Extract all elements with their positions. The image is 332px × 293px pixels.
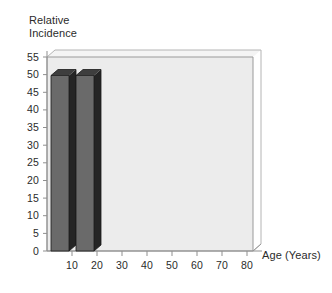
y-tick-label-50: 50 bbox=[17, 69, 39, 80]
bar-front-face bbox=[76, 76, 94, 252]
y-axis-title: Relative Incidence bbox=[29, 14, 77, 40]
y-tick-label-15: 15 bbox=[17, 193, 39, 204]
x-tick-label-50: 50 bbox=[160, 260, 184, 271]
bar-age-20 bbox=[76, 70, 101, 252]
y-tick-label-40: 40 bbox=[17, 104, 39, 115]
x-tick-label-20: 20 bbox=[85, 260, 109, 271]
bar-side-face bbox=[69, 70, 76, 252]
x-tick-label-40: 40 bbox=[135, 260, 159, 271]
y-axis-title-line-1: Relative bbox=[29, 14, 77, 27]
y-tick-label-25: 25 bbox=[17, 157, 39, 168]
y-tick-label-55: 55 bbox=[17, 52, 39, 63]
y-tick-label-5: 5 bbox=[17, 228, 39, 239]
x-tick-label-30: 30 bbox=[110, 260, 134, 271]
bar-age-10 bbox=[51, 70, 76, 252]
plot-right-ledge bbox=[253, 50, 261, 251]
y-tick-marks bbox=[43, 57, 47, 251]
x-tick-label-70: 70 bbox=[210, 260, 234, 271]
x-tick-label-10: 10 bbox=[60, 260, 84, 271]
y-tick-label-20: 20 bbox=[17, 175, 39, 186]
y-tick-label-10: 10 bbox=[17, 210, 39, 221]
plot-top-ledge bbox=[47, 50, 261, 57]
y-tick-label-0: 0 bbox=[17, 246, 39, 257]
y-axis-title-line-2: Incidence bbox=[29, 27, 77, 40]
bar-front-face bbox=[51, 76, 69, 252]
bar-side-face bbox=[94, 70, 101, 252]
y-tick-label-30: 30 bbox=[17, 140, 39, 151]
x-tick-label-80: 80 bbox=[235, 260, 259, 271]
x-tick-label-60: 60 bbox=[185, 260, 209, 271]
x-tick-marks bbox=[72, 251, 247, 256]
y-tick-label-45: 45 bbox=[17, 87, 39, 98]
bar-chart: Relative Incidence Age (Years) 0 5 10 15… bbox=[0, 0, 332, 293]
y-tick-label-35: 35 bbox=[17, 122, 39, 133]
x-axis-title: Age (Years) bbox=[262, 249, 321, 262]
